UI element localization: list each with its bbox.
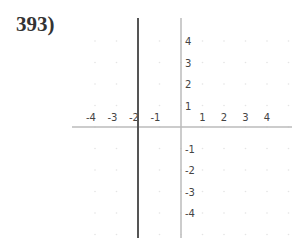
x-tick-label: 2 (221, 112, 227, 123)
y-tick-label: 4 (185, 36, 191, 47)
grid-dot (288, 105, 290, 107)
y-tick-label: 3 (185, 58, 191, 69)
grid-dot (245, 191, 247, 193)
grid-dot (223, 148, 225, 150)
grid-dot (266, 83, 268, 85)
x-tick-label: 3 (242, 112, 248, 123)
grid-dot (116, 105, 118, 107)
grid-dot (94, 169, 96, 171)
grid-dot (288, 212, 290, 214)
x-tick-label: -3 (108, 112, 118, 123)
grid-dot (159, 212, 161, 214)
grid-dot (202, 234, 204, 236)
grid-dot (202, 212, 204, 214)
y-tick-label: -2 (185, 165, 195, 176)
grid-dot (288, 169, 290, 171)
grid-dot (94, 105, 96, 107)
x-tick-label: -4 (86, 112, 96, 123)
grid-dot (223, 40, 225, 42)
grid-dot (202, 83, 204, 85)
grid-dot (116, 148, 118, 150)
grid-dot (266, 169, 268, 171)
grid-dot (223, 212, 225, 214)
grid-dot (94, 148, 96, 150)
grid-dot (223, 169, 225, 171)
grid-dot (245, 105, 247, 107)
grid-dot (116, 169, 118, 171)
grid-dot (116, 212, 118, 214)
y-tick-label: -1 (185, 144, 195, 155)
grid-dot (159, 191, 161, 193)
grid-dot (116, 83, 118, 85)
grid-dot (94, 62, 96, 64)
grid-dot (202, 62, 204, 64)
grid-dot (94, 83, 96, 85)
grid-dot (245, 169, 247, 171)
x-tick-label: 4 (264, 112, 270, 123)
grid-dot (266, 40, 268, 42)
y-tick-label: 1 (185, 101, 191, 112)
grid-dot (159, 169, 161, 171)
grid-dot (288, 83, 290, 85)
grid-dot (223, 83, 225, 85)
grid-dot (159, 234, 161, 236)
grid-dot (266, 191, 268, 193)
grid-dot (245, 212, 247, 214)
grid-dot (116, 62, 118, 64)
x-tick-label: -1 (151, 112, 161, 123)
grid-dot (202, 40, 204, 42)
grid-dot (116, 234, 118, 236)
grid-dot (116, 40, 118, 42)
x-tick-label: 1 (199, 112, 205, 123)
grid-dot (159, 148, 161, 150)
grid-dot (288, 234, 290, 236)
grid-dot (202, 191, 204, 193)
y-tick-label: 2 (185, 79, 191, 90)
grid-dot (266, 212, 268, 214)
grid-dot (94, 191, 96, 193)
grid-dot (223, 105, 225, 107)
grid-dot (266, 148, 268, 150)
grid-dot (202, 105, 204, 107)
grid-dot (266, 105, 268, 107)
grid-dot (202, 169, 204, 171)
grid-dot (223, 62, 225, 64)
grid-dot (245, 148, 247, 150)
grid-dot (94, 40, 96, 42)
grid-dot (159, 83, 161, 85)
grid-dot (159, 105, 161, 107)
grid-dot (159, 40, 161, 42)
graph-problem: 393) -4-3-2-112344321-1-2-3-4 (0, 0, 304, 245)
grid-dot (288, 40, 290, 42)
coordinate-plane: -4-3-2-112344321-1-2-3-4 (0, 0, 304, 245)
grid-dot (288, 148, 290, 150)
grid-dot (202, 148, 204, 150)
grid-dot (288, 62, 290, 64)
y-tick-label: -3 (185, 187, 195, 198)
grid-dot (223, 234, 225, 236)
grid-dot (116, 191, 118, 193)
grid-dot (266, 234, 268, 236)
grid-dot (159, 62, 161, 64)
grid-dot (266, 62, 268, 64)
grid-dot (245, 62, 247, 64)
grid-dot (94, 234, 96, 236)
grid-dot (288, 191, 290, 193)
grid-dot (94, 212, 96, 214)
y-tick-label: -4 (185, 208, 195, 219)
grid-dot (245, 234, 247, 236)
grid-dot (245, 40, 247, 42)
grid-dot (223, 191, 225, 193)
grid-dot (245, 83, 247, 85)
